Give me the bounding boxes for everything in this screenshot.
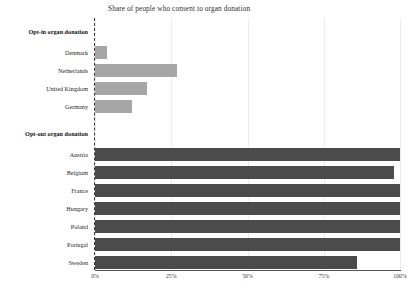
category-label-belgium: Belgium [0, 169, 88, 176]
category-label-sweden: Sweden [0, 259, 88, 266]
bar-denmark [95, 46, 107, 59]
bar-belgium [95, 166, 394, 179]
bar-austria [95, 148, 400, 161]
bar-sweden [95, 256, 357, 269]
bar-netherlands [95, 64, 177, 77]
x-tick-label-50: 50% [242, 273, 253, 279]
chart-title: Share of people who consent to organ don… [108, 5, 250, 13]
category-label-portugal: Portugal [0, 241, 88, 248]
bar-hungary [95, 202, 400, 215]
x-tick-label-0: 0% [91, 273, 99, 279]
group-label-opt-in: Opt-in organ donation [0, 28, 88, 35]
category-label-poland: Poland [0, 223, 88, 230]
category-label-netherlands: Netherlands [0, 67, 88, 74]
x-tick-label-25: 25% [166, 273, 177, 279]
category-label-hungary: Hungary [0, 205, 88, 212]
x-tick-label-75: 75% [318, 273, 329, 279]
x-tick-label-100: 100% [393, 273, 407, 279]
category-label-germany: Germany [0, 103, 88, 110]
bar-portugal [95, 238, 400, 251]
x-axis-line [95, 270, 401, 271]
category-label-united-kingdom: United Kingdom [0, 85, 88, 92]
bar-poland [95, 220, 400, 233]
gridline [400, 18, 401, 270]
plot-area [95, 18, 400, 270]
bar-france [95, 184, 400, 197]
category-label-france: France [0, 187, 88, 194]
organ-donation-bar-chart: Share of people who consent to organ don… [0, 0, 414, 292]
category-label-denmark: Denmark [0, 49, 88, 56]
category-label-austria: Austria [0, 151, 88, 158]
bar-germany [95, 100, 132, 113]
group-label-opt-out: Opt-out organ donation [0, 130, 88, 137]
bar-united-kingdom [95, 82, 147, 95]
